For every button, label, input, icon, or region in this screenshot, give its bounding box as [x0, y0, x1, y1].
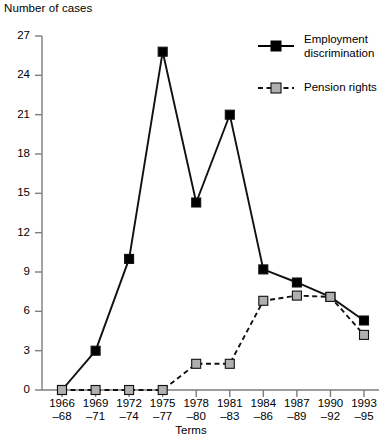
data-point-marker[interactable] — [259, 265, 268, 274]
data-point-marker[interactable] — [91, 346, 100, 355]
chart-container: Number of cases Terms 0369121518212427 1… — [0, 0, 382, 443]
data-point-marker[interactable] — [225, 359, 234, 368]
data-point-marker[interactable] — [125, 386, 134, 395]
data-point-marker[interactable] — [125, 254, 134, 263]
data-point-marker[interactable] — [292, 291, 301, 300]
legend-marker-pension — [271, 83, 281, 93]
data-point-marker[interactable] — [91, 386, 100, 395]
plot-area — [0, 0, 382, 443]
data-point-marker[interactable] — [360, 316, 369, 325]
data-point-marker[interactable] — [326, 292, 335, 301]
legend-marker-employment — [271, 41, 281, 51]
series-line-1 — [62, 52, 364, 390]
data-point-marker[interactable] — [259, 296, 268, 305]
data-point-marker[interactable] — [292, 278, 301, 287]
data-point-marker[interactable] — [58, 386, 67, 395]
data-point-marker[interactable] — [360, 330, 369, 339]
series-line-2 — [62, 296, 364, 390]
data-point-marker[interactable] — [192, 359, 201, 368]
data-point-marker[interactable] — [158, 47, 167, 56]
data-point-marker[interactable] — [225, 110, 234, 119]
data-point-marker[interactable] — [192, 198, 201, 207]
data-point-marker[interactable] — [158, 386, 167, 395]
